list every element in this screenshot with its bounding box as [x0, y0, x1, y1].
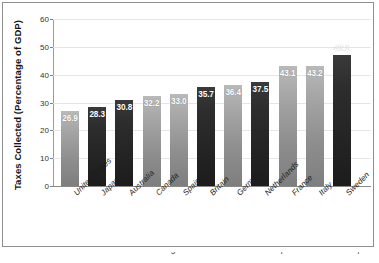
bar-value-label: 47.1	[334, 44, 350, 53]
bar-value-label: 36.4	[225, 88, 241, 97]
figure-bar-chart-taxes-collected: Taxes Collected (Percentage of GDP) 0102…	[0, 0, 379, 263]
bar-value-label: 43.2	[307, 69, 323, 78]
bar-value-label: 43.1	[280, 69, 296, 78]
y-tick-mark-50	[50, 47, 53, 48]
bar-value-label: 37.5	[253, 85, 269, 94]
figure-caption: Source: Economic data derived from the O…	[6, 252, 374, 263]
y-tick-mark-0	[50, 186, 53, 187]
bar-fill	[306, 66, 324, 186]
y-tick-label-10: 10	[40, 154, 49, 163]
y-tick-label-0: 0	[45, 182, 49, 191]
bar-italy[interactable]: 43.2	[306, 66, 324, 186]
bar-sweden[interactable]: 47.1	[333, 55, 351, 186]
gridline-60	[53, 19, 371, 20]
bar-fill	[333, 55, 351, 186]
bar-fill	[224, 85, 242, 186]
bar-value-label: 32.2	[144, 99, 160, 108]
bar-germany[interactable]: 36.4	[224, 85, 242, 186]
bar-value-label: 28.3	[89, 110, 105, 119]
y-tick-mark-60	[50, 19, 53, 20]
y-tick-label-50: 50	[40, 42, 49, 51]
gridline-50	[53, 47, 371, 48]
bar-australia[interactable]: 30.8	[115, 100, 133, 186]
bar-fill	[115, 100, 133, 186]
bar-fill	[197, 87, 215, 186]
y-axis-title-text: Taxes Collected (Percentage of GDP)	[12, 20, 23, 190]
figure-caption-text: Source: Economic data derived from the O…	[6, 252, 374, 254]
chart-frame: Taxes Collected (Percentage of GDP) 0102…	[2, 2, 374, 247]
y-tick-label-20: 20	[40, 126, 49, 135]
bar-value-label: 30.8	[117, 103, 133, 112]
y-tick-mark-20	[50, 130, 53, 131]
y-tick-mark-30	[50, 103, 53, 104]
bar-britain[interactable]: 35.7	[197, 87, 215, 186]
y-axis-title: Taxes Collected (Percentage of GDP)	[7, 15, 27, 195]
bar-value-label: 33.0	[171, 97, 187, 106]
y-tick-label-30: 30	[40, 98, 49, 107]
bar-value-label: 26.9	[62, 114, 78, 123]
y-tick-mark-40	[50, 75, 53, 76]
bar-united-states[interactable]: 26.9	[61, 111, 79, 186]
y-tick-label-60: 60	[40, 15, 49, 24]
y-tick-label-40: 40	[40, 70, 49, 79]
bar-value-label: 35.7	[198, 90, 214, 99]
y-tick-mark-10	[50, 158, 53, 159]
